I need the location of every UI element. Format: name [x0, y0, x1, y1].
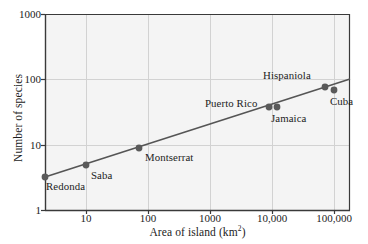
- y-tick-label: 1000: [7, 9, 41, 20]
- point-label-redonda: Redonda: [46, 181, 85, 192]
- data-point-saba: [83, 162, 90, 169]
- point-label-jamaica: Jamaica: [271, 113, 306, 124]
- data-point-montserrat: [136, 145, 143, 152]
- data-point-puerto-rico: [266, 104, 273, 111]
- point-label-montserrat: Montserrat: [145, 152, 193, 163]
- point-label-hispaniola: Hispaniola: [263, 70, 311, 81]
- data-point-jamaica: [274, 104, 281, 111]
- y-axis-title: Number of species: [12, 48, 24, 188]
- point-label-saba: Saba: [91, 170, 112, 181]
- y-tick-label: 1: [7, 205, 41, 216]
- x-axis-title: Area of island (km2): [45, 226, 350, 238]
- x-tick-label: 10: [51, 212, 121, 224]
- data-point-cuba: [331, 87, 338, 94]
- x-axis-title-tail: ): [242, 226, 246, 238]
- species-area-chart: 1101001000 10100100010,000100,000 Redond…: [0, 0, 368, 244]
- point-label-cuba: Cuba: [330, 96, 353, 107]
- data-point-hispaniola: [322, 84, 329, 91]
- x-tick-label: 100,000: [299, 212, 368, 224]
- x-tick-label: 100: [113, 212, 183, 224]
- x-axis-title-text: Area of island (km: [149, 226, 237, 238]
- point-label-puerto-rico: Puerto Rico: [205, 98, 257, 109]
- chart-plot-area: [0, 0, 368, 244]
- x-tick-label: 10,000: [237, 212, 307, 224]
- x-tick-label: 1000: [175, 212, 245, 224]
